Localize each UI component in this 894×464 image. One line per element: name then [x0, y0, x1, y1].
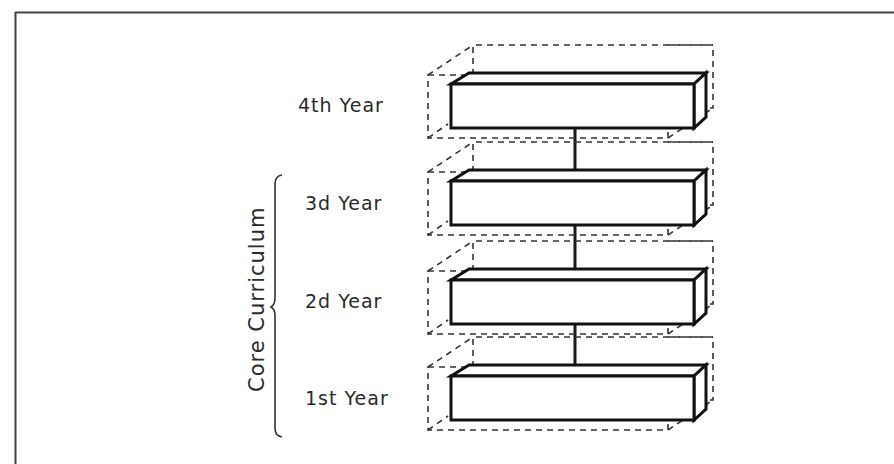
level-label-1st-year: 1st Year — [305, 387, 389, 409]
core-curriculum-label: Core Curriculum — [245, 222, 269, 392]
level-label-2d-year: 2d Year — [305, 290, 382, 312]
block-1st-year — [428, 337, 713, 430]
level-label-3d-year: 3d Year — [305, 192, 382, 214]
block-3d-year — [428, 142, 713, 235]
level-label-4th-year: 4th Year — [298, 94, 384, 116]
core-curriculum-brace — [271, 175, 282, 437]
diagram-canvas: 4th Year 3d Year 2d Year 1st Year Core C… — [0, 0, 894, 464]
block-4th-year — [428, 45, 713, 138]
diagram-svg — [0, 0, 894, 464]
block-2d-year — [428, 241, 713, 334]
